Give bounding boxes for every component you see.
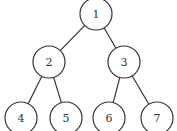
edge-3-6 — [113, 77, 120, 102]
edge-1-3 — [104, 28, 116, 48]
node-label: 3 — [121, 56, 128, 69]
binary-tree-diagram: 1234567 — [0, 0, 177, 131]
node-label: 6 — [106, 112, 113, 125]
tree-node-6: 6 — [93, 102, 125, 131]
node-label: 5 — [63, 112, 70, 125]
tree-node-5: 5 — [50, 102, 82, 131]
node-label: 2 — [46, 56, 53, 69]
tree-node-2: 2 — [33, 46, 65, 78]
edge-1-2 — [60, 25, 85, 50]
tree-node-3: 3 — [108, 46, 140, 78]
tree-nodes: 1234567 — [5, 0, 173, 131]
tree-node-1: 1 — [80, 0, 112, 30]
node-label: 7 — [154, 112, 161, 125]
node-label: 1 — [93, 8, 100, 21]
edge-2-4 — [28, 76, 42, 103]
edge-2-5 — [54, 77, 62, 102]
tree-node-4: 4 — [5, 102, 37, 131]
node-label: 4 — [18, 112, 25, 125]
edge-3-7 — [132, 76, 149, 104]
tree-node-7: 7 — [141, 102, 173, 131]
